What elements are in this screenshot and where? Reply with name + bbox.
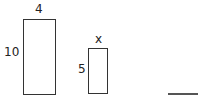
small-rectangle-height-label: 5 xyxy=(78,63,86,75)
small-rectangle-width-label: x xyxy=(95,33,102,45)
large-rectangle-height-label: 10 xyxy=(4,46,19,58)
answer-blank-line[interactable] xyxy=(168,93,198,95)
large-rectangle-width-label: 4 xyxy=(35,3,43,15)
large-rectangle xyxy=(23,19,56,95)
small-rectangle xyxy=(88,48,108,94)
